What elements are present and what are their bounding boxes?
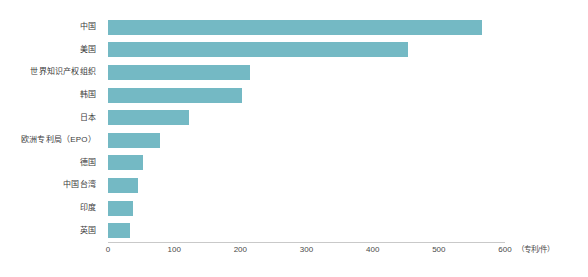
horizontal-bar-chart: 中国美国世界知识产权组织韩国日本欧洲专利局（EPO）德国中国台湾印度英国 010… <box>0 0 588 277</box>
bar-row <box>108 84 505 107</box>
y-axis-label-9: 印度 <box>0 197 102 220</box>
y-axis-label-8: 中国台湾 <box>0 174 102 197</box>
x-tick-label: 600 <box>498 246 511 254</box>
bar-row <box>108 152 505 175</box>
bar-rows <box>108 16 505 242</box>
y-axis-label-5: 日本 <box>0 106 102 129</box>
x-tick-label: 300 <box>300 246 313 254</box>
x-axis-line <box>108 242 505 243</box>
y-axis-label-text: 德国 <box>80 159 96 167</box>
x-tick-label: 500 <box>432 246 445 254</box>
bar <box>108 133 160 148</box>
bar <box>108 223 130 238</box>
y-axis-label-3: 世界知识产权组织 <box>0 61 102 84</box>
bar-row <box>108 16 505 39</box>
y-axis-label-text: 美国 <box>80 46 96 54</box>
bar-row <box>108 129 505 152</box>
x-axis-unit-label: （专利/件） <box>517 246 554 254</box>
bar-row <box>108 61 505 84</box>
y-axis-label-text: 世界知识产权组织 <box>30 68 96 76</box>
y-axis-label-1: 中国 <box>0 16 102 39</box>
x-axis-tick-labels: 0100200300400500600 <box>0 246 588 262</box>
bar <box>108 178 138 193</box>
bar <box>108 110 189 125</box>
y-axis-label-10: 英国 <box>0 219 102 242</box>
y-axis-category-labels: 中国美国世界知识产权组织韩国日本欧洲专利局（EPO）德国中国台湾印度英国 <box>0 16 102 242</box>
y-axis-label-text: 欧洲专利局（EPO） <box>21 136 96 144</box>
bar <box>108 20 482 35</box>
x-tick-label: 0 <box>106 246 110 254</box>
y-axis-label-2: 美国 <box>0 39 102 62</box>
bar-row <box>108 197 505 220</box>
bar-row <box>108 39 505 62</box>
y-axis-label-text: 中国台湾 <box>63 181 96 189</box>
x-tick-label: 400 <box>366 246 379 254</box>
plot-area <box>108 16 505 242</box>
y-axis-label-7: 德国 <box>0 152 102 175</box>
y-axis-label-text: 韩国 <box>80 91 96 99</box>
y-axis-label-text: 英国 <box>80 227 96 235</box>
bar-row <box>108 219 505 242</box>
bar <box>108 201 133 216</box>
bar <box>108 88 242 103</box>
y-axis-label-text: 日本 <box>80 114 96 122</box>
bar-row <box>108 106 505 129</box>
y-axis-label-text: 印度 <box>80 204 96 212</box>
y-axis-label-6: 欧洲专利局（EPO） <box>0 129 102 152</box>
y-axis-label-4: 韩国 <box>0 84 102 107</box>
y-axis-label-text: 中国 <box>80 23 96 31</box>
bar <box>108 155 143 170</box>
x-tick-label: 100 <box>167 246 180 254</box>
x-tick-label: 200 <box>234 246 247 254</box>
bar <box>108 42 408 57</box>
bar <box>108 65 250 80</box>
bar-row <box>108 174 505 197</box>
